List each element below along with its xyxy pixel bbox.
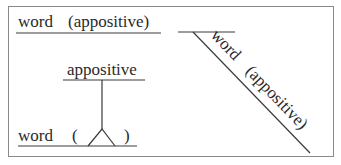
appositive-label: (appositive) xyxy=(68,12,149,31)
word-label: word xyxy=(18,126,53,145)
appositive-label: (appositive) xyxy=(242,62,312,134)
close-paren: ) xyxy=(124,126,130,145)
diagonal-line xyxy=(193,32,310,153)
word-label: word xyxy=(18,12,53,31)
example-horizontal: word (appositive) xyxy=(16,12,161,33)
open-paren: ( xyxy=(72,126,78,145)
appositive-label: appositive xyxy=(67,60,137,79)
appositive-diagram: word (appositive) word (appositive) appo… xyxy=(0,0,341,165)
example-diagonal: word (appositive) xyxy=(178,26,312,153)
fork-icon xyxy=(88,129,115,146)
example-pedestal: appositive word ( ) xyxy=(18,60,145,146)
word-label: word xyxy=(207,26,245,65)
